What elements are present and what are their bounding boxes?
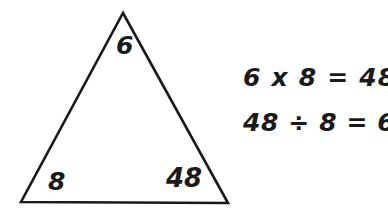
triangle-vertex-label-bottom-right: 48	[166, 165, 202, 191]
triangle-vertex-label-top: 6	[116, 33, 133, 58]
triangle-vertex-label-bottom-left: 8	[48, 169, 65, 194]
fact-family-worksheet: 6 8 48 6 x 8 = 48 48 ÷ 8 = 6	[0, 0, 388, 212]
equation-division: 48 ÷ 8 = 6	[243, 100, 383, 145]
equation-list: 6 x 8 = 48 48 ÷ 8 = 6	[243, 55, 383, 145]
equation-multiplication: 6 x 8 = 48	[243, 55, 383, 100]
